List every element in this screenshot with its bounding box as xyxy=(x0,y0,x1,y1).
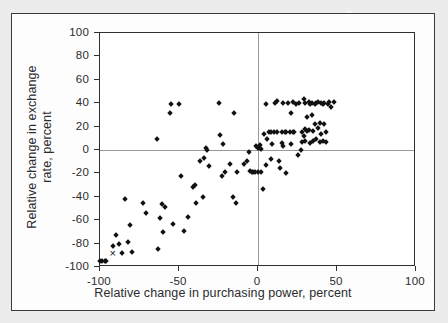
data-point-marker xyxy=(230,194,236,200)
data-point-marker xyxy=(176,102,182,108)
data-point-marker xyxy=(331,99,337,105)
data-point-marker xyxy=(260,186,266,192)
data-point-marker xyxy=(113,233,119,239)
data-point-marker xyxy=(116,241,122,247)
data-point-marker xyxy=(280,144,286,150)
data-point-marker xyxy=(263,102,269,108)
y-tick-label: 100 xyxy=(51,26,89,38)
data-point-marker xyxy=(186,214,192,220)
data-point-marker xyxy=(154,137,160,143)
data-point-marker xyxy=(216,100,222,106)
x-tick-mark xyxy=(415,266,416,271)
data-point-marker xyxy=(276,158,282,164)
data-point-marker xyxy=(268,157,274,163)
x-axis-label: Relative change in purchasing power, per… xyxy=(12,286,434,300)
y-tick-mark xyxy=(94,126,99,127)
data-point-marker xyxy=(126,240,132,246)
y-tick-mark xyxy=(94,149,99,150)
data-point-marker xyxy=(323,139,329,145)
data-point-marker xyxy=(206,164,212,170)
plot-area: × xyxy=(99,32,415,266)
y-tick-mark xyxy=(94,196,99,197)
data-point-marker xyxy=(265,137,271,143)
y-tick-label: 40 xyxy=(51,96,89,108)
y-tick-label: 60 xyxy=(51,73,89,85)
data-point-marker xyxy=(269,141,275,147)
data-point-marker xyxy=(258,169,264,175)
y-tick-mark xyxy=(94,172,99,173)
x-tick-mark xyxy=(178,266,179,271)
y-tick-mark xyxy=(94,32,99,33)
data-point-marker xyxy=(160,229,166,235)
data-point-marker xyxy=(167,110,173,116)
data-point-marker xyxy=(231,110,237,116)
data-point-marker xyxy=(143,210,149,216)
y-tick-mark xyxy=(94,79,99,80)
data-point-marker xyxy=(140,200,146,206)
figure-page: × -100-80-60-40-20020406080100 -100-5005… xyxy=(0,0,448,323)
y-tick-mark xyxy=(94,55,99,56)
y-tick-label: 80 xyxy=(51,49,89,61)
data-point-marker xyxy=(244,158,250,164)
data-point-marker xyxy=(127,222,133,228)
y-axis-label: Relative change in exchange rate, percen… xyxy=(25,57,55,237)
data-point-marker xyxy=(322,121,328,127)
data-point-marker xyxy=(119,250,125,256)
y-tick-mark xyxy=(94,219,99,220)
data-point-marker xyxy=(217,132,223,138)
data-point-marker xyxy=(328,104,334,110)
data-point-marker xyxy=(288,110,294,116)
data-point-marker xyxy=(220,141,226,147)
data-point-marker xyxy=(263,162,269,168)
data-point-marker xyxy=(205,147,211,153)
data-point-marker xyxy=(288,141,294,147)
y-tick-label: -20 xyxy=(51,166,89,178)
y-tick-label: -80 xyxy=(51,237,89,249)
x-tick-mark xyxy=(257,266,258,271)
data-point-marker xyxy=(246,149,252,155)
data-point-marker xyxy=(129,249,135,255)
data-point-marker xyxy=(103,258,109,264)
data-point-marker xyxy=(284,171,290,177)
data-point-marker xyxy=(170,221,176,227)
data-point-marker xyxy=(323,130,329,136)
y-tick-label: 0 xyxy=(51,143,89,155)
data-point-marker xyxy=(310,128,316,134)
data-point-marker xyxy=(295,152,301,158)
data-point-marker xyxy=(233,200,239,206)
y-tick-label: -100 xyxy=(51,260,89,272)
data-point-marker xyxy=(156,247,162,253)
data-point-marker xyxy=(200,194,206,200)
figure-frame: × -100-80-60-40-20020406080100 -100-5005… xyxy=(11,13,435,311)
data-point-marker xyxy=(162,204,168,210)
y-axis-label-line-1: Relative change in exchange xyxy=(25,57,40,237)
x-tick-mark xyxy=(336,266,337,271)
y-tick-label: 20 xyxy=(51,120,89,132)
data-point-marker xyxy=(181,228,187,234)
y-tick-label: -40 xyxy=(51,190,89,202)
data-point-marker xyxy=(227,161,233,167)
y-axis-label-line-2: rate, percent xyxy=(40,57,55,237)
data-point-marker xyxy=(157,215,163,221)
data-point-marker xyxy=(194,200,200,206)
data-point-marker-x: × xyxy=(108,248,117,257)
x-tick-mark xyxy=(99,266,100,271)
y-tick-label: -60 xyxy=(51,213,89,225)
data-point-marker xyxy=(235,169,241,175)
data-point-marker xyxy=(277,165,283,171)
y-tick-mark xyxy=(94,102,99,103)
y-tick-mark xyxy=(94,243,99,244)
scatter-chart: × -100-80-60-40-20020406080100 -100-5005… xyxy=(12,14,434,310)
data-point-marker xyxy=(178,173,184,179)
data-point-marker xyxy=(122,196,128,202)
data-point-marker xyxy=(168,102,174,108)
